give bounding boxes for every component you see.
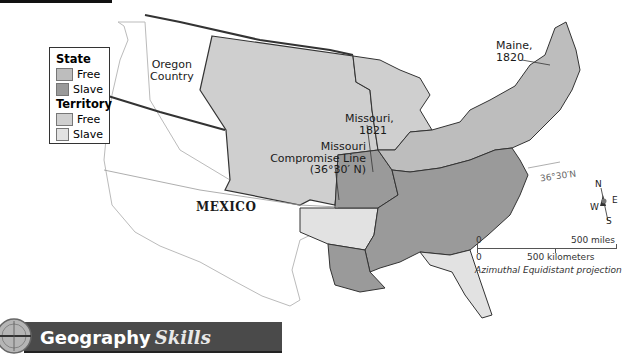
compass-n: N xyxy=(595,180,602,189)
label-line: Maine, xyxy=(496,40,520,52)
legend-item-slave-state: Slave xyxy=(56,82,103,97)
legend-item-free-state: Free xyxy=(56,67,103,82)
swatch-free-territory xyxy=(56,113,73,126)
legend-label: Free xyxy=(77,68,100,81)
swatch-slave-state xyxy=(56,83,69,96)
swatch-slave-territory xyxy=(56,128,69,141)
label-line: Missouri xyxy=(260,141,366,153)
compass-s: S xyxy=(606,217,612,226)
label-line: Country xyxy=(150,71,194,83)
label-compromise-line: Missouri Compromise Line (36°30′ N) xyxy=(260,141,366,176)
banner-title-italic: Skills xyxy=(155,327,211,348)
label-maine-1820: Maine, 1820 xyxy=(496,40,520,63)
scale-bar: 0 500 miles 0 500 kilometers Azimuthal E… xyxy=(473,234,623,284)
scale-km-label: 500 kilometers xyxy=(527,252,595,262)
legend-state-heading: State xyxy=(56,52,103,66)
label-mexico: MEXICO xyxy=(196,201,256,214)
legend-item-slave-territory: Slave xyxy=(56,127,103,142)
label-line: (36°30′ N) xyxy=(260,164,366,176)
label-line: Oregon xyxy=(150,59,194,71)
map-legend: State Free Slave Territory Free Slave xyxy=(49,47,110,144)
legend-territory-heading: Territory xyxy=(56,97,103,111)
geography-skills-banner: GeographySkills xyxy=(0,315,290,359)
scale-miles-label: 500 miles xyxy=(571,235,615,245)
compass-w: W xyxy=(590,203,599,212)
label-oregon-country: Oregon Country xyxy=(150,59,194,82)
scale-line xyxy=(477,248,617,249)
label-line: 1821 xyxy=(345,125,387,137)
scale-km-zero: 0 xyxy=(476,252,482,262)
legend-label: Slave xyxy=(73,128,103,141)
label-line: 1820 xyxy=(496,52,520,64)
legend-item-free-territory: Free xyxy=(56,112,103,127)
compass-e: E xyxy=(612,196,618,205)
banner-title: GeographySkills xyxy=(40,327,211,348)
banner-title-text: Geography xyxy=(40,327,151,348)
arkansas-territory xyxy=(300,208,378,250)
projection-label: Azimuthal Equidistant projection xyxy=(475,265,622,275)
label-line: Missouri, xyxy=(345,113,387,125)
swatch-free-state xyxy=(56,68,73,81)
scale-tick xyxy=(616,244,617,249)
compass-medallion-icon xyxy=(0,315,34,355)
label-missouri-1821: Missouri, 1821 xyxy=(345,113,387,136)
legend-label: Free xyxy=(77,113,100,126)
legend-label: Slave xyxy=(73,83,103,96)
